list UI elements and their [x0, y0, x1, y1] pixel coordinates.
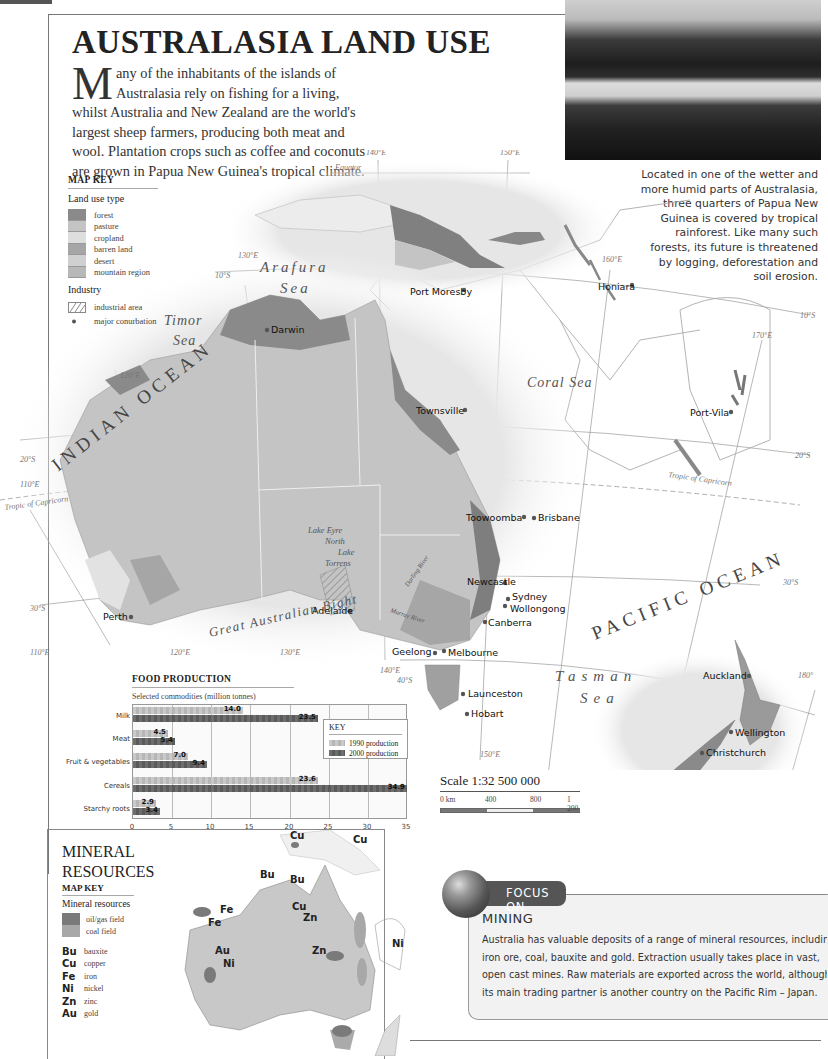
grid-180-label-north: 180°	[798, 671, 814, 680]
city-honiara: Honiara	[598, 281, 635, 292]
bar-fruit-2000: 9.4	[133, 761, 207, 768]
svg-text:Ni: Ni	[392, 938, 404, 949]
forest-swatch	[68, 209, 86, 221]
key-desert: desert	[68, 255, 158, 267]
key-cropland: cropland	[68, 232, 158, 244]
city-wollongong: Wollongong	[510, 603, 566, 614]
grid-30s-label: 30°S	[29, 604, 45, 613]
key-barren-land: barren land	[68, 244, 158, 256]
grid-120e-label: 120°E	[120, 371, 140, 380]
grid-130e-label: 130°E	[238, 251, 258, 260]
grid-20s-label-east: 20°S	[795, 451, 810, 460]
city-hobart: Hobart	[471, 708, 504, 719]
grid-130e-label-south: 130°E	[280, 648, 300, 657]
key-copper: Cucopper	[62, 958, 134, 971]
map-key-heading: MAP KEY	[68, 175, 158, 189]
svg-text:Cu: Cu	[292, 901, 306, 912]
grid-150e-label: 150°E	[500, 150, 520, 157]
land-use-title: Land use type	[68, 193, 158, 204]
city-port-vila: Port-Vila	[690, 407, 729, 418]
map-scale: Scale 1:32 500 000 0 km 400 800 1 200	[440, 773, 580, 813]
key-coal-field: coal field	[62, 925, 134, 937]
scale-bar	[440, 808, 580, 813]
category-meat: Meat	[30, 735, 130, 743]
bar-cereals-2000: 34.9	[133, 785, 407, 792]
grid-110e-label: 110°E	[20, 480, 40, 489]
city-darwin: Darwin	[271, 324, 304, 335]
chart-subtitle: Selected commodities (million tonnes)	[132, 692, 256, 701]
legend-1990: 1990 production	[329, 738, 402, 748]
rainforest-photo	[565, 0, 821, 160]
svg-text:Zn: Zn	[303, 912, 317, 923]
city-wellington: Wellington	[735, 727, 785, 738]
scale-label: 0 km	[440, 795, 455, 804]
dot-icon	[68, 316, 86, 327]
grid-110e-label-south: 110°E	[30, 648, 50, 657]
key-industrial-area: industrial area	[68, 300, 158, 314]
grid-30s-label-east: 30°S	[782, 578, 798, 587]
equator-label: Equator	[334, 163, 362, 172]
mountain-swatch	[68, 267, 86, 279]
grid-170e-label: 170°E	[752, 331, 772, 340]
scale-label: 400	[485, 795, 496, 804]
bar-cereals-1990: 23.6	[133, 777, 318, 784]
city-canberra: Canberra	[488, 617, 532, 628]
pacific-ocean-label: PACIFIC OCEAN	[589, 547, 788, 644]
key-mountain-region: mountain region	[68, 267, 158, 279]
svg-text:Fe: Fe	[208, 917, 221, 928]
grid-140e-label: 140°E	[366, 150, 386, 157]
svg-text:Ni: Ni	[223, 958, 235, 969]
category-starchy-roots: Starchy roots	[30, 805, 130, 813]
category-cereals: Cereals	[30, 782, 130, 790]
city-launceston: Launceston	[468, 688, 523, 699]
grid-10s-label: 10°S	[800, 311, 815, 320]
hatch-icon	[68, 302, 86, 313]
focus-on-panel: FOCUS ON MINING Australia has valuable d…	[440, 868, 821, 1028]
grid-20s-label: 20°S	[20, 455, 35, 464]
mineral-map: Cu Cu Bu Bu Fe Fe Cu Zn Au Ni Zn Ni	[130, 820, 410, 1056]
industry-title: Industry	[68, 284, 158, 295]
legend-2000: 2000 production	[329, 748, 402, 758]
lake-eyre-label: Lake Eyre	[307, 525, 343, 535]
drop-cap: M	[72, 65, 113, 103]
chart-legend: KEY 1990 production 2000 production	[323, 719, 408, 759]
key-bauxite: Bubauxite	[62, 945, 134, 958]
bar-milk-1990: 14.0	[133, 707, 243, 714]
city-auckland: Auckland	[703, 670, 747, 681]
chart-title: FOOD PRODUCTION	[132, 674, 294, 688]
frame-border-bottom	[410, 1040, 821, 1041]
city-toowoomba: Toowoomba	[465, 512, 522, 523]
city-newcastle: Newcastle	[467, 576, 516, 587]
mineral-resources-panel: Cu Cu Bu Bu Fe Fe Cu Zn Au Ni Zn Ni MINE…	[40, 820, 410, 1056]
bar-fruit-1990: 7.0	[133, 753, 188, 760]
pasture-swatch	[68, 221, 86, 233]
timor-sea-label: Timor	[164, 313, 202, 328]
map-key: MAP KEY Land use type forest pasture cro…	[68, 175, 158, 328]
grid-10s-label-west: 10°S	[215, 271, 230, 280]
lake-torrens-label-2: Torrens	[325, 558, 352, 568]
city-melbourne: Melbourne	[448, 647, 498, 658]
lake-eyre-label-2: North	[324, 536, 345, 546]
focus-heading: MINING	[482, 911, 533, 926]
arafura-sea-label: Arafura	[259, 259, 329, 275]
bar-meat-2000: 5.4	[133, 738, 175, 745]
grid-160e-label: 160°E	[602, 255, 622, 264]
tasman-sea-label-2: Sea	[580, 690, 620, 706]
key-major-conurbation: major conurbation	[68, 314, 158, 328]
city-townsville: Townsville	[415, 405, 464, 416]
city-sydney: Sydney	[512, 591, 548, 602]
coral-sea-label: Coral Sea	[527, 375, 592, 390]
key-zinc: Znzinc	[62, 995, 134, 1008]
bar-milk-2000: 23.5	[133, 715, 318, 722]
lake-torrens-label: Lake	[337, 547, 355, 557]
city-perth: Perth	[103, 611, 128, 622]
page-corner-tab	[0, 0, 52, 4]
scale-label: 1 200	[567, 795, 580, 813]
key-forest: forest	[68, 209, 158, 221]
category-milk: Milk	[30, 712, 130, 720]
key-oil-gas-field: oil/gas field	[62, 913, 134, 925]
svg-text:Cu: Cu	[353, 834, 367, 845]
focus-body: Australia has valuable deposits of a ran…	[482, 931, 827, 1001]
mineral-heading: MINERALRESOURCES	[62, 842, 154, 882]
cropland-swatch	[68, 232, 86, 244]
